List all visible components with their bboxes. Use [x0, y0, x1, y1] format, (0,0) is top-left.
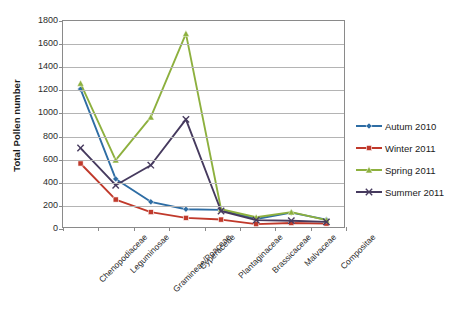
- data-point-marker: [183, 30, 190, 36]
- chart-legend: Autum 2010Winter 2011Spring 2011Summer 2…: [356, 115, 454, 203]
- x-axis-tick: [169, 227, 170, 231]
- y-axis-tick: [59, 113, 63, 114]
- data-point-marker: [148, 210, 153, 215]
- x-axis-tick: [240, 227, 241, 231]
- data-point-marker: [77, 80, 84, 86]
- data-point-marker: [78, 161, 83, 166]
- y-axis-tick: [59, 21, 63, 22]
- x-axis-tick: [311, 227, 312, 231]
- gridline: [63, 113, 344, 114]
- x-axis-tick: [63, 227, 64, 231]
- y-axis-tick: [59, 206, 63, 207]
- legend-marker-icon: [356, 186, 382, 198]
- y-axis-tick-label: 0: [53, 223, 58, 233]
- y-axis-tick: [59, 67, 63, 68]
- data-point-marker: [183, 206, 189, 212]
- data-point-marker: [77, 145, 83, 151]
- y-axis-tick: [59, 137, 63, 138]
- y-axis-title-text: Total Pollen number: [11, 79, 22, 172]
- legend-key-icon: [356, 142, 382, 154]
- gridline: [63, 44, 344, 45]
- y-axis-tick-label: 1200: [38, 84, 58, 94]
- legend-marker-icon: [356, 164, 382, 176]
- data-point-marker: [218, 217, 223, 222]
- y-axis-tick-label: 1400: [38, 61, 58, 71]
- y-axis-tick-labels: 020040060080010001200140016001800: [24, 20, 58, 228]
- pollen-line-chart: Total Pollen number 02004006008001000120…: [0, 0, 457, 311]
- gridline: [63, 90, 344, 91]
- legend-key-icon: [356, 186, 382, 198]
- legend-marker-icon: [356, 120, 382, 132]
- y-axis-tick: [59, 90, 63, 91]
- series-2: [78, 161, 329, 227]
- x-axis-tick: [275, 227, 276, 231]
- gridline: [63, 137, 344, 138]
- legend-item-3[interactable]: Spring 2011: [356, 159, 454, 181]
- y-axis-tick-label: 600: [43, 154, 58, 164]
- legend-marker-icon: [356, 142, 382, 154]
- legend-label: Winter 2011: [385, 143, 436, 154]
- y-axis-title: Total Pollen number: [8, 60, 24, 190]
- gridline: [63, 160, 344, 161]
- legend-item-4[interactable]: Summer 2011: [356, 181, 454, 203]
- gridline: [63, 183, 344, 184]
- legend-label: Summer 2011: [385, 187, 444, 198]
- legend-label: Autum 2010: [385, 121, 436, 132]
- data-point-marker: [113, 197, 118, 202]
- series-3: [77, 30, 330, 223]
- y-axis-tick: [59, 44, 63, 45]
- data-point-marker: [183, 215, 188, 220]
- data-point-marker: [147, 114, 154, 120]
- plot-area: [62, 20, 345, 228]
- legend-label: Spring 2011: [385, 165, 436, 176]
- y-axis-tick-label: 800: [43, 131, 58, 141]
- y-axis-tick: [59, 183, 63, 184]
- x-axis-tick-label: Cyperaceae: [197, 232, 236, 271]
- x-axis-tick-labels: ChenopodiaceaeLeguminosaeGramineae/Poace…: [62, 232, 345, 307]
- data-point-marker: [148, 162, 154, 168]
- legend-key-icon: [356, 120, 382, 132]
- y-axis-tick: [59, 160, 63, 161]
- x-axis-tick: [134, 227, 135, 231]
- legend-item-2[interactable]: Winter 2011: [356, 137, 454, 159]
- legend-item-1[interactable]: Autum 2010: [356, 115, 454, 137]
- x-axis-tick: [205, 227, 206, 231]
- series-line: [81, 34, 327, 221]
- y-axis-tick-label: 1600: [38, 38, 58, 48]
- x-axis-tick: [346, 227, 347, 231]
- series-svg-layer: [63, 21, 344, 227]
- y-axis-tick-label: 200: [43, 200, 58, 210]
- gridline: [63, 67, 344, 68]
- x-axis-tick: [98, 227, 99, 231]
- gridline: [63, 206, 344, 207]
- x-axis-tick-label: Compositae: [339, 232, 378, 271]
- legend-key-icon: [356, 164, 382, 176]
- y-axis-tick-label: 1000: [38, 107, 58, 117]
- y-axis-tick-label: 1800: [38, 15, 58, 25]
- y-axis-tick-label: 400: [43, 177, 58, 187]
